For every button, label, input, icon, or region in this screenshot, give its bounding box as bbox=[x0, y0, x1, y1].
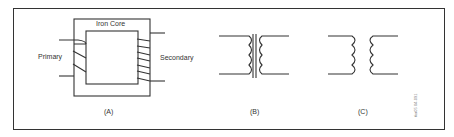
figure-code: tka05 04-091 bbox=[413, 94, 418, 117]
b-secondary-winding bbox=[260, 36, 290, 74]
secondary-coil bbox=[137, 39, 150, 81]
primary-coil bbox=[73, 44, 86, 72]
iron-core-inner bbox=[86, 31, 138, 84]
c-secondary-winding bbox=[370, 36, 398, 74]
primary-lead-top bbox=[59, 40, 86, 44]
transformer-diagram bbox=[0, 0, 454, 137]
primary-label: Primary bbox=[38, 53, 62, 60]
c-primary-winding bbox=[328, 36, 355, 74]
iron-core-label: Iron Core bbox=[96, 20, 125, 27]
caption-c: (C) bbox=[358, 108, 368, 115]
caption-a: (A) bbox=[104, 108, 113, 115]
secondary-label: Secondary bbox=[160, 54, 193, 61]
caption-b: (B) bbox=[250, 108, 259, 115]
b-primary-winding bbox=[219, 36, 252, 74]
